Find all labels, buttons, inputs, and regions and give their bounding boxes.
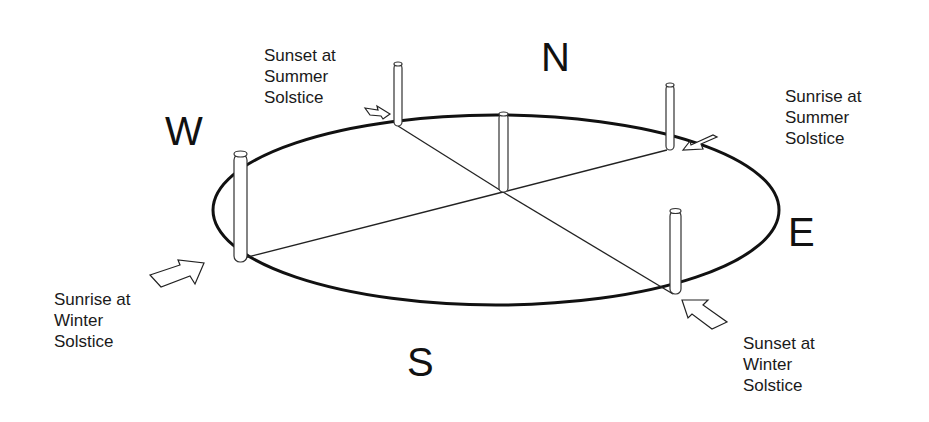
label-sunset-summer-solstice: Sunset at Summer Solstice	[264, 45, 336, 108]
label-sunrise-summer-solstice: Sunrise at Summer Solstice	[785, 86, 862, 149]
post-sunset-winter	[670, 209, 681, 295]
direction-west: W	[165, 111, 203, 151]
direction-north: N	[541, 37, 570, 77]
label-sunrise-winter-solstice: Sunrise at Winter Solstice	[54, 289, 131, 352]
post-sunset-summer	[394, 62, 402, 126]
post-sunrise-winter	[234, 151, 247, 262]
arrow-icon-sunset-summer	[365, 106, 390, 119]
post-center	[499, 112, 508, 192]
direction-south: S	[407, 342, 434, 382]
post-sunrise-summer	[666, 83, 674, 150]
arrow-icon-sunset-winter	[682, 300, 727, 329]
direction-east: E	[788, 212, 815, 252]
alignment-lines	[244, 126, 673, 294]
label-sunset-winter-solstice: Sunset at Winter Solstice	[743, 333, 815, 396]
arrow-icon-sunrise-winter	[150, 260, 204, 287]
